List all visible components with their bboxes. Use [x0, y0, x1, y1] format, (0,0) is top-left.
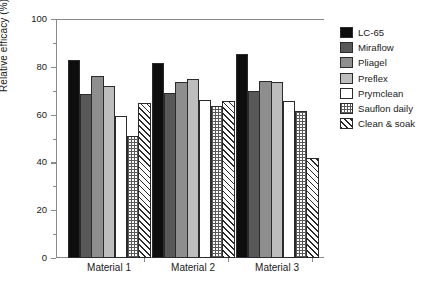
bar	[222, 101, 234, 258]
legend-label: Pliagel	[358, 57, 387, 68]
legend-swatch-icon	[340, 27, 353, 38]
bar	[306, 158, 318, 258]
chart-figure: Relative efficacy (%) 020406080100 Mater…	[0, 0, 435, 284]
legend-swatch-icon	[340, 88, 353, 99]
legend-label: Clean & soak	[358, 118, 415, 129]
y-axis-tick	[51, 258, 56, 259]
bar	[115, 116, 127, 258]
y-axis-tick-label: 40	[7, 157, 47, 167]
bar	[68, 60, 80, 258]
chart-legend: LC-65MiraflowPliagelPreflexPrymcleanSauf…	[340, 26, 415, 130]
y-axis-tick-label: 60	[7, 110, 47, 120]
legend-label: Prymclean	[358, 88, 403, 99]
legend-label: Miraflow	[358, 42, 394, 53]
bar	[127, 136, 139, 258]
y-axis-tick-label: 0	[7, 253, 47, 263]
legend-label: Sauflon daily	[358, 103, 413, 114]
legend-item: Clean & soak	[340, 117, 415, 130]
y-axis-tick-label: 80	[7, 62, 47, 72]
legend-item: Miraflow	[340, 41, 415, 54]
bar	[295, 111, 307, 258]
bar	[211, 106, 223, 258]
legend-item: Pliagel	[340, 56, 415, 69]
bar	[91, 76, 103, 258]
legend-item: Preflex	[340, 72, 415, 85]
legend-swatch-icon	[340, 42, 353, 53]
bar	[175, 82, 187, 258]
legend-label: LC-65	[358, 27, 384, 38]
x-axis-tick	[228, 258, 229, 262]
legend-label: Preflex	[358, 73, 388, 84]
bar	[271, 82, 283, 258]
legend-item: Prymclean	[340, 87, 415, 100]
bar	[187, 79, 199, 258]
legend-item: LC-65	[340, 26, 415, 39]
bar	[259, 81, 271, 258]
legend-swatch-icon	[340, 103, 353, 114]
x-axis-tick	[312, 258, 313, 262]
bar	[248, 91, 260, 258]
bar	[164, 93, 176, 258]
y-axis-tick-label: 100	[7, 14, 47, 24]
legend-swatch-icon	[340, 73, 353, 84]
bar	[103, 86, 115, 258]
bar	[199, 100, 211, 258]
bar	[138, 103, 150, 258]
x-axis-tick	[144, 258, 145, 262]
bar	[80, 94, 92, 258]
bar	[236, 54, 248, 258]
y-axis-tick-label: 20	[7, 205, 47, 215]
legend-swatch-icon	[340, 57, 353, 68]
bar	[152, 63, 164, 258]
x-axis-group-label: Material 3	[222, 262, 332, 273]
legend-item: Sauflon daily	[340, 102, 415, 115]
legend-swatch-icon	[340, 118, 353, 129]
bar	[283, 101, 295, 258]
